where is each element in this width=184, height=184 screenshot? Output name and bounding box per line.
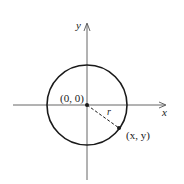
origin-label: (0, 0) <box>60 93 84 104</box>
circle-diagram <box>0 0 184 184</box>
circle-point <box>117 126 121 130</box>
point-label: (x, y) <box>126 130 150 141</box>
y-axis-label: y <box>76 20 81 31</box>
radius-label: r <box>107 107 111 117</box>
x-axis-label: x <box>162 107 167 118</box>
radius-line <box>87 105 119 128</box>
origin-point <box>85 103 89 107</box>
